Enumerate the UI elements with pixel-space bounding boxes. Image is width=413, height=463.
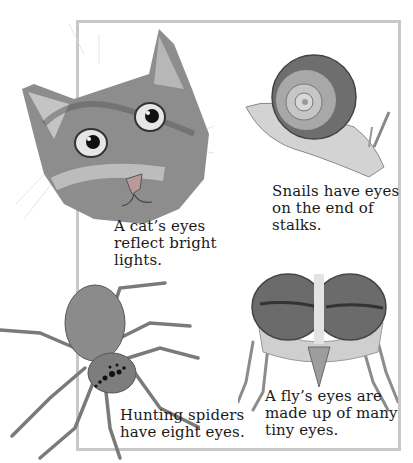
snail-caption: Snails have eyes on the end of stalks. <box>272 183 399 234</box>
spider-caption: Hunting spiders have eight eyes. <box>120 407 245 441</box>
fly-caption: A fly’s eyes are made up of many tiny ey… <box>265 388 398 439</box>
cat-head-illustration <box>14 14 214 224</box>
cat-caption: A cat’s eyes reflect bright lights. <box>114 218 217 269</box>
snail-illustration <box>244 52 394 182</box>
